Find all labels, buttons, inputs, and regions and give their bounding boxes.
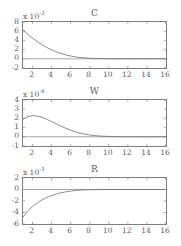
x-tick-label: 12 [120,226,134,236]
curve-c [23,30,166,59]
y-tick-label: 4 [14,36,19,43]
x-tick-label: 14 [139,226,153,236]
y-tick-label: 1 [14,123,19,130]
y-tick-label: 4 [14,96,19,103]
subplot-r: x 10-3 R 20-2-4-6 246810121416 [0,156,181,238]
subplot-title-c: C [22,8,167,19]
curve-w [23,116,166,137]
subplot-w: x 10-4 W 43210-1 246810121416 [0,78,181,160]
y-tick-label: -2 [12,197,19,204]
x-tick-label: 2 [25,226,39,236]
y-tick-label: 6 [14,27,19,34]
x-tick-label: 6 [63,226,77,236]
y-tick-label: 2 [14,114,19,121]
plot-svg-c [23,22,166,68]
y-tick-labels-c: 86420-2 [0,16,20,74]
y-tick-label: -4 [12,208,19,215]
y-tick-labels-r: 20-2-4-6 [0,172,20,230]
x-tick-label: 16 [158,226,172,236]
subplot-title-r: R [22,164,167,175]
y-tick-label: 0 [14,132,19,139]
y-tick-label: 0 [14,54,19,61]
plot-frame-c [22,21,167,69]
y-tick-label: 3 [14,105,19,112]
y-tick-label: 0 [14,185,19,192]
ticks-r [23,178,166,224]
x-tick-label: 8 [82,226,96,236]
subplot-c: x 10-3 C 86420-2 246810121416 [0,0,181,82]
y-tick-label: 8 [14,18,19,25]
plot-svg-r [23,178,166,224]
ticks-c [23,22,166,68]
plot-frame-r [22,177,167,225]
y-tick-label: 2 [14,45,19,52]
curve-r [23,190,166,218]
figure-canvas: x 10-3 C 86420-2 246810121416 x 10-4 W 4… [0,0,181,246]
subplot-title-w: W [22,86,167,97]
x-tick-label: 4 [44,226,58,236]
x-tick-labels-r: 246810121416 [0,226,181,238]
ticks-w [23,100,166,146]
y-tick-labels-w: 43210-1 [0,94,20,152]
plot-svg-w [23,100,166,146]
y-tick-label: 2 [14,174,19,181]
x-tick-label: 10 [101,226,115,236]
plot-frame-w [22,99,167,147]
